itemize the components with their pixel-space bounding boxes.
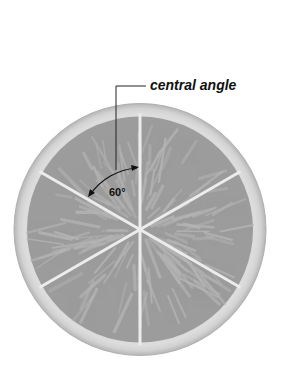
- angle-value-label: 60°: [109, 186, 126, 198]
- central-angle-label: central angle: [150, 77, 236, 93]
- citrus-slice-diagram: [0, 0, 283, 372]
